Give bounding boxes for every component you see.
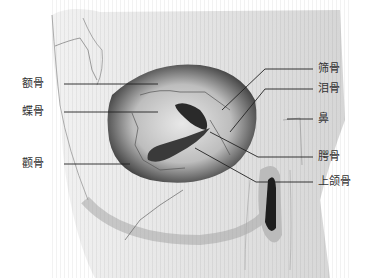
label-zygomatic-bone: 颧骨 (22, 157, 44, 170)
label-frontal-bone: 额骨 (22, 77, 44, 90)
label-lacrimal-bone: 泪骨 (318, 82, 340, 95)
orbit-diagram: 额骨 蝶骨 颧骨 筛骨 泪骨 鼻 腭骨 上颌骨 (0, 0, 371, 278)
label-nasal: 鼻 (318, 112, 329, 125)
label-ethmoid-bone: 筛骨 (318, 62, 340, 75)
label-sphenoid-bone: 蝶骨 (22, 105, 44, 118)
skull-illustration (0, 0, 371, 278)
label-palatine-bone: 腭骨 (318, 150, 340, 163)
orbit-cavity (108, 64, 257, 182)
label-maxilla: 上颌骨 (318, 175, 351, 188)
